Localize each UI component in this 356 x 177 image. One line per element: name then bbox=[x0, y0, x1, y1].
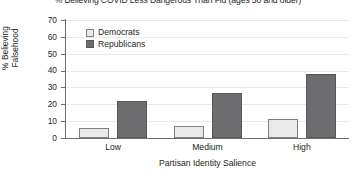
legend-item-democrats: Democrats bbox=[86, 27, 145, 39]
y-tick-label-60: 60 bbox=[17, 33, 57, 41]
y-tick-label-70: 70 bbox=[17, 16, 57, 24]
legend-item-republicans: Republicans bbox=[86, 39, 145, 51]
y-tick-mark-30 bbox=[61, 87, 65, 88]
y-tick-mark-0 bbox=[61, 138, 65, 139]
x-axis-label-low: Low bbox=[68, 142, 158, 152]
y-tick-mark-50 bbox=[61, 54, 65, 55]
bar-medium-democrats bbox=[174, 126, 204, 138]
y-tick-label-30: 30 bbox=[17, 83, 57, 91]
y-tick-mark-40 bbox=[61, 71, 65, 72]
chart-title: % Believing COVID Less Dangerous Than Fl… bbox=[0, 0, 356, 5]
x-axis-title: Partisan Identity Salience bbox=[66, 158, 349, 168]
legend-label-republicans: Republicans bbox=[98, 39, 145, 51]
y-tick-label-50: 50 bbox=[17, 50, 57, 58]
y-tick-label-0: 0 bbox=[17, 134, 57, 142]
legend-label-democrats: Democrats bbox=[98, 27, 140, 39]
legend: Democrats Republicans bbox=[86, 27, 145, 50]
bar-chart-figure: % Believing COVID Less Dangerous Than Fl… bbox=[0, 0, 356, 177]
y-tick-mark-70 bbox=[61, 20, 65, 21]
legend-swatch-democrats-icon bbox=[86, 29, 94, 37]
legend-swatch-republicans-icon bbox=[86, 40, 94, 48]
x-axis-line bbox=[66, 138, 349, 139]
y-tick-mark-10 bbox=[61, 121, 65, 122]
bar-high-democrats bbox=[268, 119, 298, 138]
y-tick-label-10: 10 bbox=[17, 117, 57, 125]
bar-low-democrats bbox=[79, 128, 109, 138]
bar-medium-republicans bbox=[212, 93, 242, 139]
bar-high-republicans bbox=[306, 74, 336, 138]
x-axis-label-medium: Medium bbox=[163, 142, 253, 152]
y-axis-title-line-1: % Believing bbox=[0, 0, 10, 103]
bar-low-republicans bbox=[117, 101, 147, 138]
y-tick-label-20: 20 bbox=[17, 100, 57, 108]
y-tick-mark-20 bbox=[61, 104, 65, 105]
y-tick-mark-60 bbox=[61, 37, 65, 38]
x-axis-label-high: High bbox=[257, 142, 347, 152]
y-tick-label-40: 40 bbox=[17, 66, 57, 74]
